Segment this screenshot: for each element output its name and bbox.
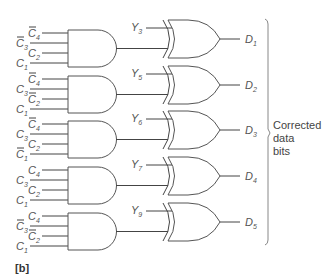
and-gate-group-4: C4C3C2C1 — [16, 164, 168, 208]
xor-back-curve — [163, 157, 170, 195]
y-input-label: Y9 — [131, 204, 142, 218]
y-input-label: Y3 — [131, 21, 142, 35]
d-output-label: D3 — [245, 124, 257, 138]
input-label-c2: C2 — [28, 138, 40, 152]
and-gate — [68, 76, 117, 113]
xor-gate-group-5: Y9D5 — [131, 203, 257, 241]
input-label-c3: C3 — [16, 83, 28, 97]
d-output-label: D1 — [245, 33, 257, 47]
input-label-c1: C1 — [16, 148, 28, 162]
and-gate-group-2: C4C3C2C1 — [16, 73, 168, 117]
and-gate — [68, 30, 117, 67]
xor-gate-group-2: Y5D2 — [131, 66, 257, 104]
xor-back-curve — [163, 20, 170, 58]
xor-back-curve — [163, 111, 170, 149]
y-input-label: Y6 — [131, 112, 142, 126]
input-label-c3: C3 — [16, 128, 28, 142]
figure-caption: [b] — [15, 262, 29, 274]
input-label-c1: C1 — [16, 57, 28, 71]
y-input-label: Y5 — [131, 67, 142, 81]
d-output-label: D5 — [245, 216, 257, 230]
brace-bracket — [265, 19, 270, 245]
and-gate — [68, 213, 117, 250]
input-label-c3: C3 — [16, 37, 28, 51]
and-gate — [68, 121, 117, 158]
y-input-label: Y7 — [131, 158, 143, 172]
input-label-c3: C3 — [16, 174, 28, 188]
xor-gate — [168, 111, 220, 149]
side-label-line-3: bits — [273, 145, 291, 157]
logic-circuit-diagram: C4C3C2C1C4C3C2C1C4C3C2C1C4C3C2C1C4C3C2C1… — [0, 0, 334, 279]
and-gate — [68, 167, 117, 204]
xor-gate — [168, 66, 220, 104]
input-label-c4: C4 — [28, 164, 40, 178]
input-label-c1: C1 — [16, 103, 28, 117]
input-label-c4: C4 — [28, 27, 40, 41]
input-label-c4: C4 — [28, 210, 40, 224]
xor-gate-group-3: Y6D3 — [131, 111, 257, 149]
side-label-line-2: data — [273, 132, 295, 144]
side-label-line-1: Corrected — [273, 119, 321, 131]
input-label-c1: C1 — [16, 240, 28, 254]
input-label-c1: C1 — [16, 194, 28, 208]
input-label-c3: C3 — [16, 220, 28, 234]
d-output-label: D2 — [245, 79, 257, 93]
input-label-c2: C2 — [28, 230, 40, 244]
xor-gate — [168, 203, 220, 241]
and-gate-group-3: C4C3C2C1 — [16, 118, 168, 162]
d-output-label: D4 — [245, 170, 257, 184]
and-gate-group-1: C4C3C2C1 — [16, 27, 168, 71]
and-gate-group-5: C4C3C2C1 — [16, 210, 168, 254]
xor-back-curve — [163, 203, 170, 241]
input-label-c4: C4 — [28, 118, 40, 132]
input-label-c2: C2 — [28, 93, 40, 107]
input-label-c2: C2 — [28, 184, 40, 198]
xor-gate — [168, 157, 220, 195]
xor-back-curve — [163, 66, 170, 104]
input-label-c4: C4 — [28, 73, 40, 87]
xor-gate — [168, 20, 220, 58]
xor-gate-group-1: Y3D1 — [131, 20, 257, 58]
input-label-c2: C2 — [28, 47, 40, 61]
xor-gate-group-4: Y7D4 — [131, 157, 257, 195]
